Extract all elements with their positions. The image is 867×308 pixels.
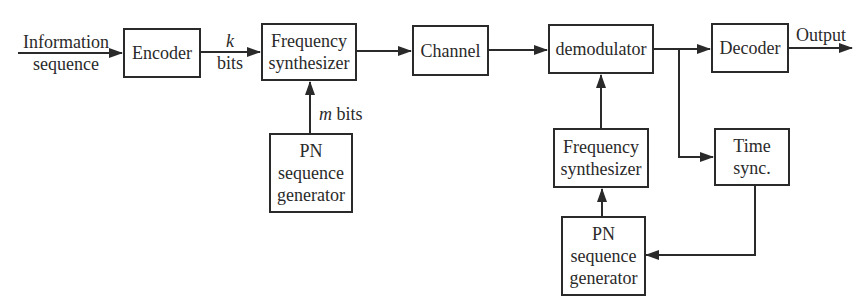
frequency-synthesizer-rx-block: Frequency synthesizer: [553, 128, 649, 188]
freq-synth-rx-line2: synthesizer: [561, 158, 642, 180]
input-label: Information sequence: [18, 31, 114, 75]
pn-tx-line1: PN: [299, 140, 322, 162]
freq-synth-rx-line1: Frequency: [563, 136, 639, 158]
channel-text: Channel: [421, 40, 481, 62]
m-variable: m: [319, 104, 332, 124]
decoder-text: Decoder: [720, 37, 781, 59]
freq-synth-tx-line1: Frequency: [271, 30, 347, 52]
k-variable: k: [206, 30, 254, 52]
demodulator-text: demodulator: [556, 38, 647, 60]
demodulator-block: demodulator: [548, 24, 654, 74]
k-bits-label: k bits: [206, 30, 254, 74]
m-unit: bits: [332, 104, 363, 124]
pn-sequence-generator-tx-block: PN sequence generator: [269, 133, 353, 213]
channel-block: Channel: [412, 25, 489, 76]
time-sync-line2: sync.: [733, 157, 771, 179]
output-label: Output: [796, 24, 846, 46]
frequency-synthesizer-tx-block: Frequency synthesizer: [261, 23, 357, 81]
pn-sequence-generator-rx-block: PN sequence generator: [561, 216, 646, 296]
freq-synth-tx-line2: synthesizer: [269, 52, 350, 74]
pn-tx-line3: generator: [277, 184, 345, 206]
m-bits-label: m bits: [319, 103, 363, 125]
input-label-line1: Information: [18, 31, 114, 53]
decoder-block: Decoder: [711, 23, 789, 73]
input-label-line2: sequence: [18, 53, 114, 75]
encoder-block: Encoder: [123, 28, 201, 78]
pn-rx-line1: PN: [592, 223, 615, 245]
pn-tx-line2: sequence: [278, 162, 344, 184]
arrow-time-sync-to-pn-rx: [646, 186, 755, 255]
arrow-demod-to-time-sync: [679, 49, 713, 157]
time-sync-block: Time sync.: [714, 128, 790, 186]
encoder-text: Encoder: [132, 42, 192, 64]
k-unit: bits: [206, 52, 254, 74]
pn-rx-line2: sequence: [571, 245, 637, 267]
pn-rx-line3: generator: [570, 267, 638, 289]
time-sync-line1: Time: [733, 135, 770, 157]
